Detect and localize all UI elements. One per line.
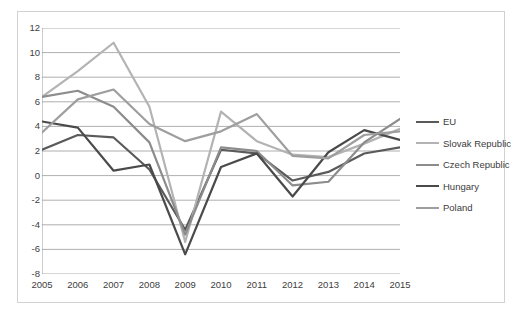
- x-tick-label: 2005: [25, 279, 59, 290]
- x-tick-label: 2006: [61, 279, 95, 290]
- legend-label: Poland: [443, 202, 473, 213]
- legend-item[interactable]: Poland: [416, 197, 522, 219]
- y-tick-label: 6: [18, 96, 40, 107]
- legend-swatch-icon: [416, 207, 439, 209]
- y-tick-label: -6: [18, 243, 40, 254]
- y-tick-label: -8: [18, 268, 40, 279]
- plot-area: [42, 28, 400, 274]
- x-tick-label: 2008: [132, 279, 166, 290]
- x-tick-label: 2012: [276, 279, 310, 290]
- y-tick-label: 12: [18, 22, 40, 33]
- y-tick-label: -4: [18, 219, 40, 230]
- y-tick-label: 10: [18, 47, 40, 58]
- legend-item[interactable]: Hungary: [416, 176, 522, 198]
- legend-swatch-icon: [416, 185, 439, 187]
- x-tick-label: 2011: [240, 279, 274, 290]
- y-tick-label: 2: [18, 145, 40, 156]
- y-tick-label: -2: [18, 194, 40, 205]
- y-tick-label: 8: [18, 71, 40, 82]
- chart-legend: EUSlovak RepublicCzech RepublicHungaryPo…: [416, 111, 522, 219]
- x-tick-label: 2013: [311, 279, 345, 290]
- x-tick-label: 2015: [383, 279, 417, 290]
- y-tick-label: 4: [18, 120, 40, 131]
- x-tick-label: 2014: [347, 279, 381, 290]
- x-tick-label: 2010: [204, 279, 238, 290]
- legend-item[interactable]: Slovak Republic: [416, 133, 522, 155]
- legend-label: Hungary: [443, 181, 479, 192]
- legend-label: Slovak Republic: [443, 138, 511, 149]
- line-chart-svg: [42, 28, 400, 274]
- y-tick-label: 0: [18, 170, 40, 181]
- legend-swatch-icon: [416, 121, 439, 123]
- legend-item[interactable]: EU: [416, 111, 522, 133]
- legend-swatch-icon: [416, 164, 439, 166]
- legend-label: Czech Republic: [443, 159, 510, 170]
- x-tick-label: 2009: [168, 279, 202, 290]
- series-line-hungary: [42, 121, 400, 254]
- legend-label: EU: [443, 116, 456, 127]
- x-tick-label: 2007: [97, 279, 131, 290]
- legend-item[interactable]: Czech Republic: [416, 154, 522, 176]
- legend-swatch-icon: [416, 142, 439, 144]
- chart-container: 121086420-2-4-6-8 2005200620072008200920…: [17, 11, 505, 303]
